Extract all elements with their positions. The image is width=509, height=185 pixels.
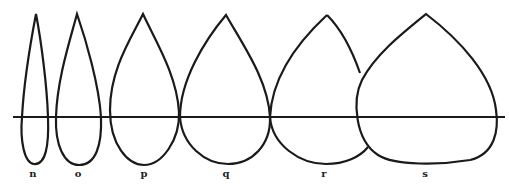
shape-n — [22, 14, 49, 164]
label-o: o — [75, 168, 82, 179]
label-p: p — [141, 168, 148, 179]
shape-s — [357, 14, 497, 164]
label-r: r — [321, 168, 326, 179]
shape-q — [180, 15, 270, 164]
shape-o — [56, 14, 101, 165]
label-s: s — [422, 168, 428, 179]
shape-p — [110, 14, 179, 165]
label-q: q — [223, 168, 230, 179]
label-n: n — [29, 168, 36, 179]
drop-shapes-figure — [0, 0, 509, 185]
shape-r — [270, 15, 368, 164]
